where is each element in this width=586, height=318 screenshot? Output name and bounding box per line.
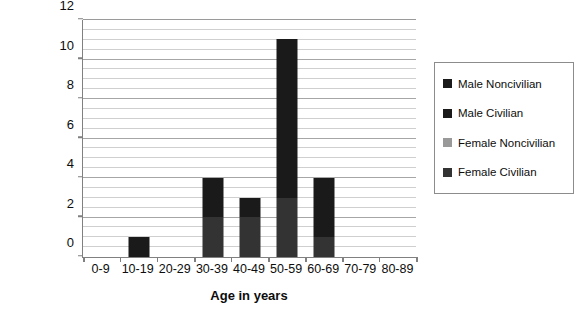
plot-area: 024681012 bbox=[82, 20, 416, 258]
bar-slot bbox=[83, 20, 120, 257]
bar-slot bbox=[342, 20, 379, 257]
chart-container: Number of cases 024681012 0-910-1920-293… bbox=[0, 0, 586, 318]
x-axis-tick-label: 80-89 bbox=[379, 262, 416, 276]
legend-item[interactable]: Male Noncivilian bbox=[443, 78, 573, 90]
x-axis-tick-label: 50-59 bbox=[268, 262, 305, 276]
bar-segment[interactable] bbox=[313, 178, 334, 237]
bar-segment[interactable] bbox=[128, 237, 149, 257]
x-axis-tick-label: 10-19 bbox=[119, 262, 156, 276]
x-axis-tick-label: 70-79 bbox=[342, 262, 379, 276]
legend-item-label: Female Civilian bbox=[458, 166, 537, 178]
bar-segment[interactable] bbox=[313, 237, 334, 257]
y-axis-tick-label: 12 bbox=[60, 0, 83, 13]
legend-swatch-icon bbox=[443, 138, 452, 147]
legend-item-label: Female Noncivilian bbox=[458, 137, 555, 149]
y-axis-tick-label: 10 bbox=[60, 37, 83, 52]
legend-item[interactable]: Male Civilian bbox=[443, 107, 573, 119]
bar-segment[interactable] bbox=[239, 217, 260, 257]
legend-item[interactable]: Female Noncivilian bbox=[443, 137, 573, 149]
legend-swatch-icon bbox=[443, 79, 452, 88]
x-axis-tick-labels: 0-910-1920-2930-3940-4950-5960-6970-7980… bbox=[82, 262, 416, 276]
y-axis-tick-label: 0 bbox=[67, 235, 83, 250]
bar-slot bbox=[120, 20, 157, 257]
bar-slot bbox=[231, 20, 268, 257]
x-axis-tick-label: 40-49 bbox=[230, 262, 267, 276]
legend-item-label: Male Noncivilian bbox=[458, 78, 542, 90]
y-axis-tick-label: 2 bbox=[67, 195, 83, 210]
bar-segment[interactable] bbox=[276, 198, 297, 257]
bar[interactable] bbox=[276, 39, 297, 257]
y-axis-tick-label: 4 bbox=[67, 156, 83, 171]
x-axis-tick-label: 0-9 bbox=[82, 262, 119, 276]
y-axis-tick-label: 8 bbox=[67, 77, 83, 92]
y-axis-tick-label: 6 bbox=[67, 116, 83, 131]
bar-segment[interactable] bbox=[202, 217, 223, 257]
bar[interactable] bbox=[239, 198, 260, 258]
chart-legend: Male NoncivilianMale CivilianFemale Nonc… bbox=[434, 62, 574, 194]
bar-segment[interactable] bbox=[202, 178, 223, 218]
bar[interactable] bbox=[313, 178, 334, 257]
legend-item-label: Male Civilian bbox=[458, 107, 523, 119]
bar-slot bbox=[194, 20, 231, 257]
bar[interactable] bbox=[202, 178, 223, 257]
x-axis-tick-label: 20-29 bbox=[156, 262, 193, 276]
bar-segment[interactable] bbox=[239, 198, 260, 218]
bar-slot bbox=[268, 20, 305, 257]
legend-item[interactable]: Female Civilian bbox=[443, 166, 573, 178]
bar-slot bbox=[379, 20, 416, 257]
x-axis-tick-label: 60-69 bbox=[305, 262, 342, 276]
bar-series-layer bbox=[83, 20, 416, 257]
bar-slot bbox=[157, 20, 194, 257]
bar-slot bbox=[305, 20, 342, 257]
bar[interactable] bbox=[128, 237, 149, 257]
x-axis-title: Age in years bbox=[82, 288, 416, 303]
legend-swatch-icon bbox=[443, 109, 452, 118]
bar-segment[interactable] bbox=[276, 39, 297, 198]
x-axis-tick-label: 30-39 bbox=[193, 262, 230, 276]
x-axis-tick-mark bbox=[416, 257, 418, 262]
legend-swatch-icon bbox=[443, 168, 452, 177]
